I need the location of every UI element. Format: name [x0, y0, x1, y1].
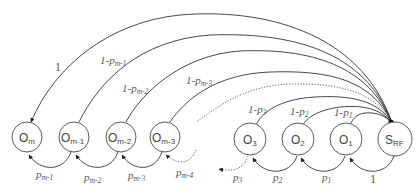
label-top-o1: 1-p1	[334, 106, 352, 120]
node-om-3: Om-3	[150, 122, 180, 152]
label-bottom-pm1: pm-1	[35, 168, 53, 182]
edge-srf-to-o1	[350, 156, 394, 171]
label-top-om3: 1-pm-3	[186, 74, 213, 88]
label-bottom-pm2: pm-2	[83, 171, 101, 185]
label-top-om: 1	[55, 60, 61, 74]
label-bottom-p3: p3	[232, 171, 243, 185]
edge-om1-to-om	[29, 152, 71, 167]
edge-o3-to-dots	[219, 156, 248, 170]
edge-srf-dotted	[196, 84, 392, 123]
node-o2: O2	[282, 123, 314, 155]
node-o1: O1	[330, 123, 362, 155]
bottom-edge-labels: pm-1 pm-2 pm-3 pm-4 p3 p2 p1 1	[35, 166, 376, 186]
label-top-o3: 1-p3	[248, 103, 267, 117]
label-top-o2: 1-p2	[290, 105, 309, 119]
edge-om2-to-om1	[76, 152, 118, 167]
edge-o1-to-o2	[301, 156, 345, 171]
node-o3: O3	[234, 123, 266, 155]
node-om-1: Om-1	[59, 122, 89, 152]
markov-chain-diagram: Om Om-1 Om-2 Om-3 O3 O2 O1 SRF 1 1-pm-1 …	[0, 0, 419, 190]
edge-dots-to-om3	[166, 150, 196, 162]
label-top-om1: 1-pm-1	[100, 54, 126, 68]
label-top-om2: 1-pm-2	[122, 82, 149, 96]
label-bottom-pm4: pm-4	[175, 166, 193, 180]
node-om: Om	[12, 122, 42, 152]
label-bottom-p1: p1	[321, 171, 331, 185]
edge-o2-to-o3	[253, 156, 297, 171]
label-bottom-p2: p2	[272, 171, 283, 185]
edge-om3-to-om2	[122, 152, 162, 167]
top-edge-labels: 1 1-pm-1 1-pm-2 1-pm-3 1-p3 1-p2 1-p1	[55, 54, 352, 120]
node-srf: SRF	[378, 122, 412, 156]
label-bottom-srf: 1	[370, 172, 376, 186]
node-om-2: Om-2	[106, 122, 136, 152]
label-bottom-pm3: pm-3	[127, 169, 145, 183]
